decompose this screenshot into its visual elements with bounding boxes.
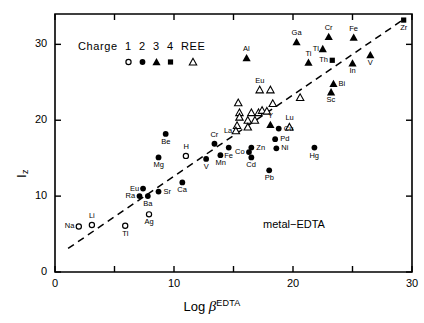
legend-marker-filled-triangle (152, 58, 160, 65)
data-point-Ra (137, 193, 143, 199)
data-point-label: Hg (309, 152, 319, 160)
x-axis-label-superscript: EDTA (216, 298, 240, 308)
y-tick-label: 20 (35, 113, 47, 125)
data-point-label: Ra (125, 192, 135, 200)
data-point-Y (266, 121, 274, 128)
data-point-Cr (212, 141, 218, 147)
data-point-Fe (226, 145, 232, 151)
data-point-label: Na (65, 222, 75, 230)
data-point-H (183, 153, 188, 158)
data-point-label: Ag (145, 218, 154, 226)
data-point-label: V (204, 163, 209, 171)
data-point-label: Pd (280, 135, 289, 143)
x-tick-label: 10 (168, 277, 180, 289)
data-point-Ni (273, 145, 279, 151)
data-point-Ga (292, 38, 300, 45)
data-point-Zn (248, 145, 254, 151)
data-point-Be (163, 131, 169, 137)
legend-marker-filled-circle (140, 59, 146, 65)
data-point-label: Pb (265, 174, 274, 182)
data-point-label: La (224, 127, 232, 135)
data-point-label: Be (161, 138, 170, 146)
scatter-plot-canvas (0, 0, 424, 323)
data-point-Sr (156, 189, 162, 195)
data-point-Tl (123, 223, 128, 228)
data-point-label: Sc (327, 96, 336, 104)
data-point-label: Th (319, 56, 328, 64)
data-point-Hg (312, 145, 318, 151)
data-point-Bi (329, 80, 337, 87)
data-point-V (203, 156, 209, 162)
y-axis-label: Iz (14, 138, 30, 178)
data-point-Na (76, 224, 81, 229)
data-point-label: Cr (210, 131, 218, 139)
y-tick-label: 10 (35, 189, 47, 201)
data-point-label: Tl (313, 45, 319, 53)
legend-entry-label: 3 (153, 40, 160, 52)
data-point-label: H (183, 143, 188, 151)
plot-annotation: metal−EDTA (263, 218, 325, 230)
data-point-label: Bi (338, 80, 345, 88)
data-point-Th (330, 58, 335, 63)
data-point-label: Cr (325, 24, 333, 32)
data-point-Pd (272, 136, 278, 142)
data-point-unlabeled (235, 99, 242, 106)
legend-marker-filled-square (168, 59, 173, 64)
data-point-label: Zn (256, 144, 265, 152)
legend-entry-label: 4 (167, 40, 174, 52)
legend-entry-label: 2 (139, 40, 146, 52)
plot-frame (55, 14, 412, 272)
x-axis-label: Log βEDTA (0, 298, 424, 315)
legend-marker-open-circle (126, 59, 131, 64)
x-axis-label-text: Log (184, 299, 209, 314)
data-point-label: Cd (246, 161, 256, 169)
data-point-label: Zr (400, 24, 407, 32)
data-point-label: Fe (224, 152, 233, 160)
data-point-unlabeled (296, 94, 303, 101)
data-point-Ag (146, 212, 151, 217)
data-point-Li (89, 222, 94, 227)
y-tick-label: 30 (35, 37, 47, 49)
data-point-Zr (401, 17, 406, 22)
legend-marker-open-triangle (189, 58, 196, 65)
data-point-label: Ti (305, 50, 311, 58)
data-point-label: Ba (143, 200, 152, 208)
data-point-Fe (350, 33, 358, 40)
data-point-label: Tl (122, 230, 128, 238)
data-point-label: Mg (154, 161, 164, 169)
data-point-label: Lu (285, 114, 293, 122)
data-point-Tl (319, 45, 327, 52)
legend-title: Charge (78, 40, 118, 52)
data-point-Al (242, 54, 250, 61)
data-point-label: Ga (292, 29, 302, 37)
chart-figure: Iz Log βEDTA metal−EDTA Charge1234REE 01… (0, 0, 424, 323)
data-point-label: Al (243, 45, 250, 53)
data-point-Cr (325, 33, 333, 40)
legend-entry-label: 1 (125, 40, 132, 52)
data-point-label: Fe (349, 25, 358, 33)
data-point-Eu (256, 86, 263, 93)
data-point-unlabeled (244, 117, 251, 124)
data-point-unlabeled (233, 122, 240, 129)
data-point-label: Sr (164, 188, 172, 196)
data-point-label: Mn (215, 159, 225, 167)
data-point-unlabeled (248, 109, 255, 116)
y-axis-label-text: I (14, 174, 29, 178)
data-point-unlabeled (269, 100, 276, 107)
data-point-unlabeled (267, 86, 274, 93)
data-point-label: Ni (281, 144, 288, 152)
data-point-label: Li (89, 212, 95, 220)
data-point-label: V (368, 59, 373, 67)
data-point-label: In (350, 67, 356, 75)
data-point-Cu (276, 126, 282, 132)
data-point-Eu (140, 186, 146, 192)
data-point-label: Ca (177, 186, 187, 194)
data-point-label: Y (268, 112, 273, 120)
data-point-label: Eu (255, 77, 264, 85)
y-tick-label: 0 (41, 265, 47, 277)
x-tick-label: 20 (287, 277, 299, 289)
data-point-label: Cu (284, 125, 294, 133)
data-point-label: Co (235, 148, 245, 156)
x-tick-label: 30 (406, 277, 418, 289)
x-tick-label: 0 (52, 277, 58, 289)
